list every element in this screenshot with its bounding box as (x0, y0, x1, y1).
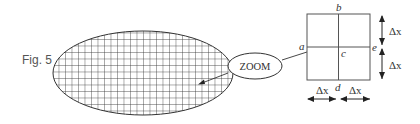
spacing-label-right-lower: Δx (389, 59, 402, 71)
figure-label: Fig. 5 (22, 53, 52, 67)
zoom-callout: ZOOM (228, 53, 282, 79)
spacing-label-bottom-left: Δx (316, 84, 329, 96)
zoomed-cell (307, 14, 370, 80)
node-label-d: d (335, 81, 341, 93)
node-label-c: c (341, 47, 346, 59)
spacing-label-right-upper: Δx (389, 25, 402, 37)
node-label-a: a (299, 40, 305, 52)
zoom-callout-label: ZOOM (240, 61, 272, 72)
node-label-e: e (372, 41, 377, 53)
finite-difference-grid-diagram: Fig. 5 ZOOM b a c e d Δx Δx Δx Δx (0, 0, 420, 124)
zoom-connector-line (282, 52, 307, 60)
spacing-label-bottom-right: Δx (349, 84, 362, 96)
node-label-b: b (336, 1, 342, 13)
mesh-region (50, 28, 236, 120)
